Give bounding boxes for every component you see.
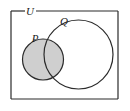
universal-set-label: U	[26, 5, 35, 17]
set-q-label: Q	[60, 15, 68, 27]
venn-diagram-canvas: U P Q	[0, 0, 130, 111]
venn-diagram-figure: U P Q	[0, 0, 130, 111]
set-p-label: P	[31, 32, 39, 44]
